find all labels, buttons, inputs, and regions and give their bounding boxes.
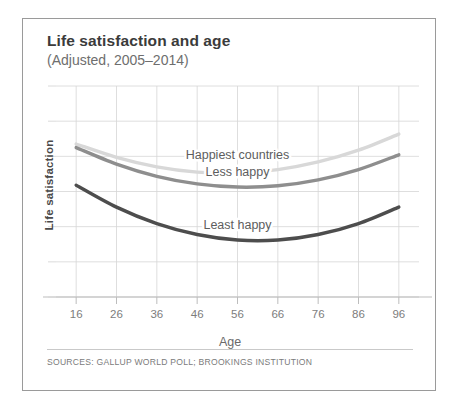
series-label-happiest-countries: Happiest countries [186, 148, 290, 162]
gridlines [56, 86, 419, 297]
x-tick-label: 96 [392, 308, 405, 320]
x-tick-label: 76 [312, 308, 325, 320]
plot-area: 162636465666768696Happiest countriesHapp… [23, 19, 437, 392]
sources-text: SOURCES: GALLUP WORLD POLL; BROOKINGS IN… [47, 357, 312, 367]
x-tick-label: 16 [70, 308, 83, 320]
x-tick-label: 66 [271, 308, 284, 320]
series-label-least-happy: Least happy [203, 218, 272, 232]
series-label-less-happy: Less happy [206, 165, 271, 179]
x-tick-label: 46 [191, 308, 204, 320]
y-axis-title: Life satisfaction [43, 125, 55, 245]
footer-divider [47, 349, 413, 350]
x-axis-title: Age [23, 335, 437, 349]
x-tick-label: 56 [231, 308, 244, 320]
x-tick-label: 36 [150, 308, 163, 320]
x-tick-label: 86 [352, 308, 365, 320]
chart-card: Life satisfaction and age (Adjusted, 200… [22, 18, 436, 391]
x-axis-ticks: 162636465666768696 [70, 297, 405, 320]
x-tick-label: 26 [110, 308, 123, 320]
